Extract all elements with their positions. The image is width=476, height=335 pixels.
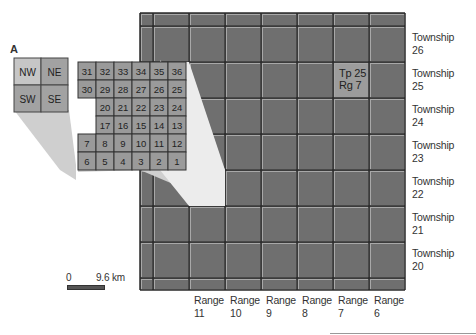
range-number: 9 bbox=[266, 307, 300, 320]
township-cell bbox=[191, 15, 225, 26]
section-number: 14 bbox=[154, 120, 165, 131]
township-cell bbox=[142, 280, 153, 290]
range-word: Range bbox=[374, 294, 408, 307]
township-cell bbox=[371, 172, 405, 206]
township-cell bbox=[335, 280, 369, 290]
section-number: 21 bbox=[118, 102, 129, 113]
township-cell bbox=[227, 136, 261, 170]
township-cell bbox=[227, 280, 261, 290]
township-number: 21 bbox=[412, 224, 472, 237]
township-word: Township bbox=[412, 247, 472, 260]
township-cell bbox=[191, 244, 225, 278]
section-number: 3 bbox=[138, 156, 143, 167]
township-cell bbox=[335, 172, 369, 206]
township-cell bbox=[155, 244, 189, 278]
township-cell bbox=[191, 28, 225, 62]
range-label: Range9 bbox=[266, 294, 300, 320]
township-number: 22 bbox=[412, 188, 472, 201]
township-cell bbox=[227, 64, 261, 98]
range-number: 8 bbox=[302, 307, 336, 320]
township-cell bbox=[299, 64, 333, 98]
township-cell bbox=[263, 100, 297, 134]
township-cell bbox=[155, 280, 189, 290]
section-number: 31 bbox=[82, 66, 93, 77]
section-number: 4 bbox=[120, 156, 125, 167]
township-cell bbox=[371, 28, 405, 62]
township-word: Township bbox=[412, 103, 472, 116]
section-number: 30 bbox=[82, 84, 93, 95]
section-number: 17 bbox=[100, 120, 111, 131]
township-number: 25 bbox=[412, 80, 472, 93]
township-cell bbox=[299, 15, 333, 26]
township-cell bbox=[155, 28, 189, 62]
range-label: Range11 bbox=[194, 294, 228, 320]
township-cell bbox=[263, 172, 297, 206]
township-cell bbox=[191, 280, 225, 290]
scale-bar bbox=[67, 285, 105, 290]
inset-label: A bbox=[10, 43, 18, 56]
township-cell bbox=[371, 244, 405, 278]
township-cell bbox=[299, 208, 333, 242]
township-word: Township bbox=[412, 139, 472, 152]
township-cell bbox=[263, 64, 297, 98]
range-number: 10 bbox=[230, 307, 264, 320]
divider-line bbox=[330, 333, 476, 334]
township-cell bbox=[263, 136, 297, 170]
section-number: 35 bbox=[154, 66, 165, 77]
highlight-range: Rg 7 bbox=[339, 79, 366, 91]
section-number: 8 bbox=[102, 138, 107, 149]
section-number: 6 bbox=[84, 156, 89, 167]
township-cell bbox=[299, 136, 333, 170]
range-word: Range bbox=[194, 294, 228, 307]
section-number: 10 bbox=[136, 138, 147, 149]
section-number: 9 bbox=[120, 138, 125, 149]
section-number: 27 bbox=[136, 84, 147, 95]
section-number: 26 bbox=[154, 84, 165, 95]
highlight-township: Tp 25 bbox=[339, 67, 366, 79]
quarter-label-nw: NW bbox=[19, 67, 36, 78]
township-cell bbox=[227, 208, 261, 242]
township-cell bbox=[142, 172, 153, 206]
township-number: 23 bbox=[412, 152, 472, 165]
township-cell bbox=[142, 244, 153, 278]
township-cell bbox=[142, 28, 153, 62]
township-number: 24 bbox=[412, 116, 472, 129]
section-number: 11 bbox=[154, 138, 164, 149]
section-number: 7 bbox=[84, 138, 89, 149]
township-cell bbox=[371, 280, 405, 290]
section-number: 16 bbox=[118, 120, 129, 131]
township-number: 20 bbox=[412, 260, 472, 273]
township-word: Township bbox=[412, 67, 472, 80]
township-label: Township22 bbox=[412, 175, 472, 201]
township-cell bbox=[299, 28, 333, 62]
township-cell bbox=[371, 64, 405, 98]
section-number: 12 bbox=[172, 138, 183, 149]
township-cell bbox=[335, 244, 369, 278]
quarter-callout-wedge bbox=[14, 110, 76, 180]
township-cell bbox=[371, 136, 405, 170]
township-cell bbox=[142, 15, 153, 26]
township-cell bbox=[263, 280, 297, 290]
township-range-diagram: 3132333435363029282726252021222324171615… bbox=[0, 0, 476, 335]
township-cell bbox=[335, 208, 369, 242]
section-number: 5 bbox=[102, 156, 107, 167]
section-number: 15 bbox=[136, 120, 147, 131]
range-word: Range bbox=[230, 294, 264, 307]
township-cell bbox=[191, 208, 225, 242]
scale-end-label: 9.6 km bbox=[96, 271, 125, 284]
section-number: 32 bbox=[100, 66, 111, 77]
township-cell bbox=[299, 172, 333, 206]
township-cell bbox=[299, 244, 333, 278]
township-cell bbox=[335, 15, 369, 26]
township-number: 26 bbox=[412, 44, 472, 57]
township-cell bbox=[299, 100, 333, 134]
township-cell bbox=[263, 15, 297, 26]
quarter-label-sw: SW bbox=[19, 94, 36, 105]
township-cell bbox=[335, 100, 369, 134]
township-cell bbox=[371, 15, 405, 26]
township-cell bbox=[335, 136, 369, 170]
township-cell bbox=[371, 100, 405, 134]
township-cell bbox=[155, 208, 189, 242]
scale-start-label: 0 bbox=[66, 271, 71, 284]
range-word: Range bbox=[302, 294, 336, 307]
